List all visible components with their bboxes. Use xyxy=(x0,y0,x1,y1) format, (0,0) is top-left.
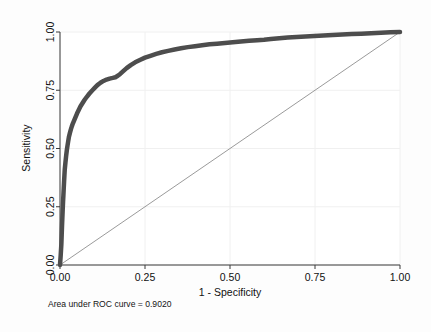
x-tick-label: 0.50 xyxy=(220,271,241,283)
roc-chart-svg: 0.000.250.500.751.00 0.000.250.500.751.0… xyxy=(0,0,431,332)
y-tick-label: 0.75 xyxy=(44,80,56,101)
y-axis-title: Sensitivity xyxy=(20,124,32,172)
y-tick-label: 0.50 xyxy=(44,138,56,159)
y-tick-label: 0.25 xyxy=(44,196,56,217)
x-tick-label: 0.75 xyxy=(305,271,326,283)
y-tick-label: 0.00 xyxy=(44,255,56,276)
auc-caption: Area under ROC curve = 0.9020 xyxy=(48,299,172,309)
x-axis-title: 1 - Specificity xyxy=(199,286,262,298)
x-tick-label: 0.25 xyxy=(135,271,156,283)
x-tick-label: 1.00 xyxy=(390,271,411,283)
roc-figure: 0.000.250.500.751.00 0.000.250.500.751.0… xyxy=(0,0,431,332)
y-tick-label: 1.00 xyxy=(44,22,56,43)
